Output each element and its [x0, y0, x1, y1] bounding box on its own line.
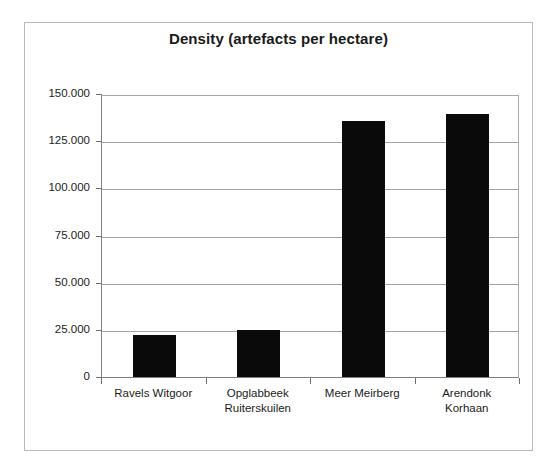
bar	[446, 114, 489, 377]
x-axis-category-label: Ravels Witgoor	[101, 386, 206, 401]
y-axis-tick	[96, 94, 102, 95]
bar	[237, 330, 280, 377]
x-axis-label-line: Opglabbeek	[227, 387, 289, 399]
y-axis-tick-label: 125.000	[28, 134, 90, 146]
x-axis-category-label: OpglabbeekRuiterskuilen	[206, 386, 311, 416]
y-axis-tick-label: 0	[28, 370, 90, 382]
x-axis-label-line: Arendonk	[442, 387, 491, 399]
y-axis-tick	[96, 283, 102, 284]
y-axis-tick-label: 100.000	[28, 181, 90, 193]
x-axis-category-label: Meer Meirberg	[310, 386, 415, 401]
y-axis-tick-label: 75.000	[28, 229, 90, 241]
x-axis-category-label: ArendonkKorhaan	[415, 386, 520, 416]
y-axis-tick-label: 50.000	[28, 276, 90, 288]
bar	[133, 335, 176, 377]
x-axis-tick	[519, 378, 520, 384]
x-axis-label-line: Ravels Witgoor	[114, 387, 192, 399]
x-axis-label-line: Korhaan	[415, 401, 520, 416]
x-axis-tick	[206, 378, 207, 384]
x-axis-tick	[101, 378, 102, 384]
y-axis-tick-label: 25.000	[28, 323, 90, 335]
chart-container: Density (artefacts per hectare) 025.0005…	[0, 0, 553, 465]
x-axis-tick	[310, 378, 311, 384]
y-axis-tick	[96, 236, 102, 237]
x-axis-label-line: Ruiterskuilen	[206, 401, 311, 416]
chart-title: Density (artefacts per hectare)	[24, 30, 533, 47]
y-axis-tick-label: 150.000	[28, 87, 90, 99]
x-axis-tick	[415, 378, 416, 384]
y-axis-tick	[96, 141, 102, 142]
plot-area	[101, 95, 519, 378]
y-axis-tick	[96, 330, 102, 331]
x-axis-label-line: Meer Meirberg	[325, 387, 400, 399]
y-axis-tick	[96, 188, 102, 189]
bar	[342, 121, 385, 377]
